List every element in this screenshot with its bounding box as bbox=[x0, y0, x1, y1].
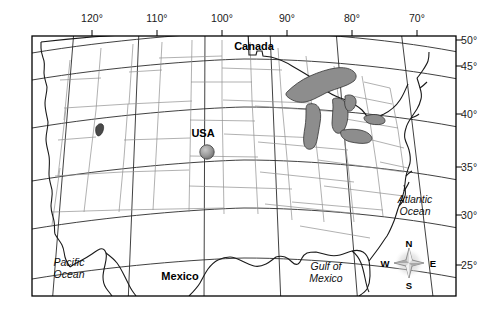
location-marker[interactable] bbox=[200, 145, 214, 159]
longitude-tick-label: 100° bbox=[211, 12, 233, 24]
latitude-tick-label: 25° bbox=[461, 259, 477, 271]
longitude-tick-label: 120° bbox=[81, 12, 103, 24]
longitude-tick-label: 90° bbox=[279, 12, 295, 24]
longitude-tick-label: 110° bbox=[146, 12, 167, 24]
label-atlantic-ocean-line2: Ocean bbox=[398, 205, 432, 217]
label-canada: Canada bbox=[234, 40, 274, 53]
latitude-tick-label: 50° bbox=[461, 34, 477, 46]
label-atlantic-ocean-line1: Atlantic bbox=[398, 193, 432, 205]
latitude-tick-label: 40° bbox=[461, 108, 477, 120]
map-figure: 120° 110° 100° 90° 80° 70° 50° 45° 40° 3… bbox=[0, 0, 492, 315]
label-pacific-ocean-line1: Pacific bbox=[54, 256, 85, 268]
label-atlantic-ocean: Atlantic Ocean bbox=[398, 193, 432, 218]
label-gulf-line1: Gulf of bbox=[309, 260, 342, 272]
compass-north-label: N bbox=[406, 238, 413, 249]
longitude-tick-label: 80° bbox=[344, 12, 360, 24]
label-usa: USA bbox=[191, 127, 214, 140]
label-gulf-line2: Mexico bbox=[309, 272, 342, 284]
longitude-tick-label: 70° bbox=[409, 12, 425, 24]
compass-south-label: S bbox=[406, 280, 412, 291]
latitude-tick-label: 30° bbox=[461, 209, 477, 221]
label-mexico: Mexico bbox=[161, 270, 198, 283]
label-gulf-of-mexico: Gulf of Mexico bbox=[309, 260, 342, 285]
label-pacific-ocean: Pacific Ocean bbox=[54, 256, 85, 281]
latitude-tick-label: 45° bbox=[461, 60, 477, 72]
latitude-tick-label: 35° bbox=[461, 161, 477, 173]
compass-east-label: E bbox=[430, 258, 436, 269]
compass-west-label: W bbox=[381, 258, 390, 269]
label-pacific-ocean-line2: Ocean bbox=[54, 268, 85, 280]
compass-rose bbox=[394, 248, 424, 278]
